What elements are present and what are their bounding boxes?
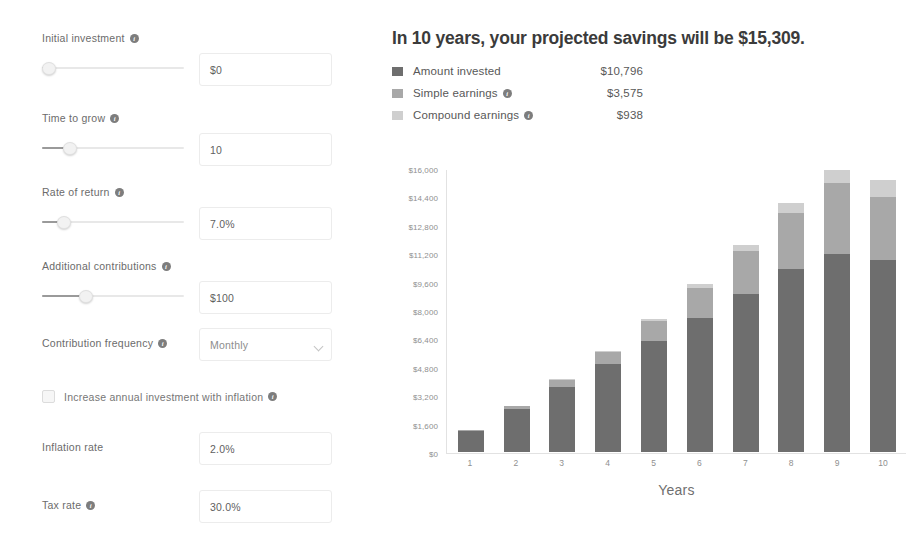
- label-text: Inflation rate: [42, 441, 103, 453]
- slider-time-to-grow[interactable]: [42, 146, 184, 150]
- bar-group[interactable]: [504, 170, 530, 452]
- info-icon[interactable]: i: [86, 501, 95, 510]
- label-text: Compound earnings: [413, 109, 519, 121]
- x-axis-tick: 4: [595, 458, 621, 468]
- info-icon[interactable]: i: [158, 339, 167, 348]
- field-time-to-grow: Time to grow i 10: [42, 112, 332, 167]
- input-tax-rate[interactable]: 30.0%: [199, 490, 332, 523]
- bar-group[interactable]: [641, 170, 667, 452]
- bar-segment: [824, 170, 850, 183]
- legend-item-amount-invested: Amount invested $10,796: [392, 60, 722, 82]
- bar-group[interactable]: [595, 170, 621, 452]
- slider-thumb[interactable]: [63, 142, 77, 155]
- legend-swatch-amount-invested: [392, 67, 403, 76]
- legend-label-simple-earnings: Simple earnings i: [413, 87, 563, 99]
- slider-thumb[interactable]: [57, 216, 71, 229]
- x-axis-tick: 3: [549, 458, 575, 468]
- bar-segment: [778, 269, 804, 452]
- info-icon[interactable]: i: [130, 34, 139, 43]
- bar-segment: [687, 288, 713, 318]
- select-value: Monthly: [210, 339, 248, 351]
- bar-group[interactable]: [687, 170, 713, 452]
- slider-initial-investment[interactable]: [42, 66, 184, 70]
- input-inflation-rate[interactable]: 2.0%: [199, 432, 332, 465]
- legend-label-amount-invested: Amount invested: [413, 65, 563, 77]
- label-rate-of-return: Rate of return i: [42, 186, 332, 198]
- legend-value-compound-earnings: $938: [563, 109, 643, 121]
- bar-group[interactable]: [733, 170, 759, 452]
- legend-item-simple-earnings: Simple earnings i $3,575: [392, 82, 722, 104]
- x-axis-tick: 10: [870, 458, 896, 468]
- label-text: Rate of return: [42, 186, 110, 198]
- bar-group[interactable]: [778, 170, 804, 452]
- bar-segment: [549, 387, 575, 452]
- bar-segment: [870, 260, 896, 452]
- bar-segment: [458, 431, 484, 452]
- control-row: 10: [42, 133, 332, 167]
- legend-value-simple-earnings: $3,575: [563, 87, 643, 99]
- field-tax-rate: Tax rate i 30.0%: [42, 490, 332, 523]
- results-panel: In 10 years, your projected savings will…: [392, 0, 912, 546]
- plot-area: [446, 170, 906, 454]
- bar-segment: [687, 318, 713, 452]
- bar-segment: [870, 197, 896, 260]
- input-time-to-grow[interactable]: 10: [199, 133, 332, 166]
- info-icon[interactable]: i: [110, 114, 119, 123]
- info-icon[interactable]: i: [115, 188, 124, 197]
- bar-group[interactable]: [870, 170, 896, 452]
- field-rate-of-return: Rate of return i 7.0%: [42, 186, 332, 241]
- bar-segment: [549, 380, 575, 387]
- input-initial-investment[interactable]: $0: [199, 53, 332, 86]
- x-axis-title: Years: [447, 482, 906, 498]
- checkbox-increase-with-inflation[interactable]: [42, 390, 55, 403]
- label-text: Tax rate: [42, 499, 81, 511]
- bar-segment: [824, 254, 850, 452]
- bar-group[interactable]: [824, 170, 850, 452]
- y-axis-tick: $11,200: [409, 251, 438, 260]
- info-icon[interactable]: i: [162, 262, 171, 271]
- bar-group[interactable]: [549, 170, 575, 452]
- field-inflation-rate: Inflation rate 2.0%: [42, 432, 332, 465]
- info-icon[interactable]: i: [524, 111, 533, 120]
- x-axis-tick: 8: [778, 458, 804, 468]
- x-axis-tick: 7: [732, 458, 758, 468]
- label-inflation-rate: Inflation rate: [42, 441, 103, 453]
- slider-thumb[interactable]: [42, 62, 56, 75]
- label-text: Initial investment: [42, 32, 125, 44]
- info-icon[interactable]: i: [503, 89, 512, 98]
- x-axis-tick: 1: [457, 458, 483, 468]
- chart-legend: Amount invested $10,796 Simple earnings …: [392, 60, 722, 126]
- bar-group[interactable]: [458, 170, 484, 452]
- input-rate-of-return[interactable]: 7.0%: [199, 207, 332, 240]
- info-icon[interactable]: i: [268, 392, 277, 401]
- legend-swatch-simple-earnings: [392, 89, 403, 98]
- bars-container: [448, 170, 906, 452]
- bar-segment: [641, 341, 667, 452]
- field-additional-contributions: Additional contributions i $100: [42, 260, 332, 315]
- input-additional-contributions[interactable]: $100: [199, 281, 332, 314]
- label-text: Amount invested: [413, 65, 501, 77]
- label-additional-contributions: Additional contributions i: [42, 260, 332, 272]
- slider-thumb[interactable]: [79, 290, 93, 303]
- control-row: $100: [42, 281, 332, 315]
- label-text: Increase annual investment with inflatio…: [64, 391, 263, 403]
- label-initial-investment: Initial investment i: [42, 32, 332, 44]
- slider-additional-contributions[interactable]: [42, 294, 184, 298]
- y-axis-tick: $4,800: [413, 364, 438, 373]
- legend-label-compound-earnings: Compound earnings i: [413, 109, 563, 121]
- slider-rate-of-return[interactable]: [42, 220, 184, 224]
- field-initial-investment: Initial investment i $0: [42, 32, 332, 87]
- legend-swatch-compound-earnings: [392, 111, 403, 120]
- label-time-to-grow: Time to grow i: [42, 112, 332, 124]
- select-contribution-frequency[interactable]: Monthly: [199, 328, 332, 361]
- checkbox-row-inflation[interactable]: Increase annual investment with inflatio…: [42, 390, 332, 403]
- label-increase-with-inflation: Increase annual investment with inflatio…: [64, 391, 277, 403]
- bar-segment: [733, 294, 759, 452]
- label-contribution-frequency: Contribution frequency i: [42, 337, 167, 349]
- x-axis-tick: 2: [503, 458, 529, 468]
- label-text: Time to grow: [42, 112, 105, 124]
- y-axis-tick: $6,400: [413, 336, 438, 345]
- slider-track: [42, 67, 184, 69]
- y-axis-tick: $16,000: [408, 166, 438, 175]
- x-axis-tick: 9: [824, 458, 850, 468]
